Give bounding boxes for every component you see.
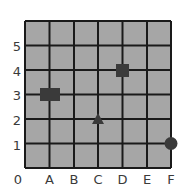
x-label-c: C [93,173,102,186]
square-marker-d4 [116,64,129,77]
x-label-f: F [167,173,174,186]
rectangle-marker-a3 [40,88,60,101]
x-label-a: A [45,173,54,186]
x-label-d: D [117,173,127,186]
coordinate-grid [0,0,184,193]
x-label-e: E [143,173,151,186]
y-label-4: 4 [13,65,21,78]
origin-label: 0 [14,173,22,186]
x-label-b: B [70,173,79,186]
y-label-3: 3 [13,89,21,102]
circle-marker-f1 [165,137,178,150]
y-label-5: 5 [13,40,21,53]
y-label-1: 1 [13,139,21,152]
y-label-2: 2 [13,114,21,127]
